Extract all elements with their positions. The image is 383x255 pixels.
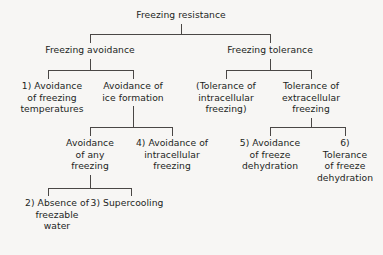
node-avoidance-of-ice-formation: Avoidance of ice formation — [102, 80, 163, 103]
node-tolerance-of-intracellular-freezing: (Tolerance of intracellular freezing) — [196, 80, 256, 115]
node-avoidance-of-any-freezing: Avoidance of any freezing — [66, 137, 114, 172]
node-avoidance-of-intracellular-freezing: 4) Avoidance of intracellular freezing — [136, 137, 208, 172]
node-tolerance-of-freeze-dehydration: 6) Tolerance of freeze dehydration — [317, 137, 373, 183]
node-tolerance-of-extracellular-freezing: Tolerance of extracellular freezing — [282, 80, 340, 115]
freezing-resistance-diagram: Freezing resistance Freezing avoidance F… — [0, 0, 383, 255]
node-avoidance-of-freeze-dehydration: 5) Avoidance of freeze dehydration — [240, 137, 300, 172]
node-avoidance-of-freezing-temperatures: 1) Avoidance of freezing temperatures — [20, 80, 83, 115]
node-freezing-resistance: Freezing resistance — [136, 9, 226, 21]
node-absence-of-freezable-water: 2) Absence of freezable water — [25, 197, 89, 232]
node-freezing-avoidance: Freezing avoidance — [45, 44, 135, 56]
node-supercooling: 3) Supercooling — [91, 197, 164, 209]
node-freezing-tolerance: Freezing tolerance — [227, 44, 313, 56]
